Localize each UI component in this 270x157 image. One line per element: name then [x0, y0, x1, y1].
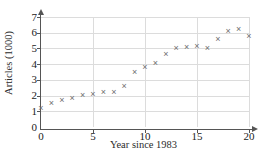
data-point [90, 91, 97, 98]
data-point [173, 45, 180, 52]
data-point [58, 97, 65, 104]
y-tick-label: 6 [25, 27, 37, 38]
y-tick-mark [37, 17, 41, 18]
data-point [162, 51, 169, 58]
y-tick-label: 3 [25, 74, 37, 85]
data-point [194, 43, 201, 50]
plot-area [41, 17, 249, 127]
y-tick-mark [37, 80, 41, 81]
data-point [142, 64, 149, 71]
x-tick-mark [93, 129, 94, 133]
scatter-chart: Articles (1000) 01234567 05101520 Year s… [0, 0, 270, 157]
x-tick-mark [249, 129, 250, 133]
data-point [246, 33, 253, 40]
data-point [235, 26, 242, 33]
data-point [69, 95, 76, 102]
x-axis-title: Year since 1983 [36, 139, 251, 150]
gridline-vertical [145, 17, 146, 127]
data-point [152, 60, 159, 67]
data-point [100, 89, 107, 96]
y-tick-label: 4 [25, 59, 37, 70]
y-tick-mark [37, 64, 41, 65]
y-axis-title: Articles (1000) [2, 0, 16, 128]
data-point [183, 44, 190, 51]
x-tick-mark [145, 129, 146, 133]
y-tick-label: 7 [25, 12, 37, 23]
data-point [225, 28, 232, 35]
data-point [131, 69, 138, 76]
data-point [110, 89, 117, 96]
data-point [48, 100, 55, 107]
data-point [121, 83, 128, 90]
data-point [79, 92, 86, 99]
y-tick-label: 2 [25, 90, 37, 101]
x-tick-mark [197, 129, 198, 133]
y-tick-label: 1 [25, 106, 37, 117]
gridline-vertical [93, 17, 94, 127]
y-tick-mark [37, 96, 41, 97]
data-point [214, 36, 221, 43]
gridline-vertical [197, 17, 198, 127]
y-axis-arrowhead [38, 9, 44, 15]
data-point [204, 45, 211, 52]
y-tick-mark [37, 33, 41, 34]
y-tick-mark [37, 111, 41, 112]
y-tick-label: 5 [25, 43, 37, 54]
y-tick-mark [37, 48, 41, 49]
